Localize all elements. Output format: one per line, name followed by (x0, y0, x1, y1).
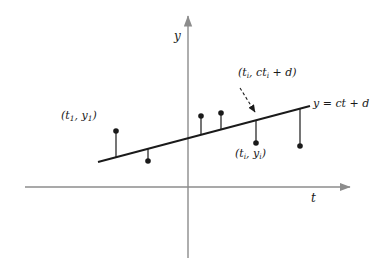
fitted-line (98, 106, 310, 162)
line-equation-lhs: y (313, 97, 319, 110)
line-equation-intercept: d (362, 97, 369, 110)
ith-point-label-open: (t (235, 147, 244, 160)
data-point-p3 (198, 113, 204, 119)
fitted-value-label: (ti, cti + d) (238, 67, 297, 79)
data-points (113, 110, 303, 164)
diagram-canvas (0, 0, 376, 268)
t-axis-label: t (311, 192, 316, 204)
ith-point-label-mid: , y (246, 147, 259, 160)
data-point-p2 (145, 158, 151, 164)
y-axis-label: y (174, 30, 181, 42)
line-equation-equals: = (323, 97, 332, 110)
line-equation-label: y = ct + d (313, 98, 369, 109)
line-equation-plus: + (350, 97, 359, 110)
first-point-label-mid: , y (74, 109, 87, 122)
first-point-label: (t1, y1) (61, 110, 97, 122)
ith-point-label-close: ) (262, 147, 266, 160)
data-point-p6 (297, 143, 303, 149)
ith-point-label: (ti, yi) (235, 148, 266, 160)
fitted-value-label-tail: + d) (269, 66, 297, 79)
first-point-label-open: (t (61, 109, 70, 122)
data-point-p1 (113, 128, 119, 134)
data-point-pi (253, 140, 259, 146)
first-point-label-close: ) (92, 109, 96, 122)
fitted-value-label-mid: , ct (249, 66, 267, 79)
least-squares-figure: y t (t1, y1) (ti, yi) (ti, cti + d) y = … (0, 0, 376, 268)
line-equation-slope-term: ct (335, 97, 346, 110)
data-point-p4 (218, 110, 224, 116)
fitted-value-label-open: (t (238, 66, 247, 79)
fitted-value-leader-arrow (240, 88, 255, 112)
